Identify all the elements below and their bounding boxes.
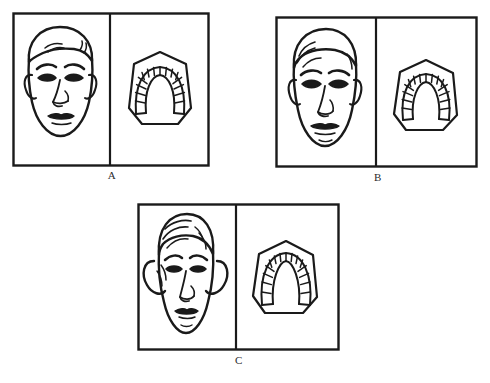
panel-label-c: C (209, 355, 269, 366)
panel-label-b: B (348, 172, 408, 183)
arch-c-cap-left (262, 304, 273, 305)
arch-a-cap-right (174, 113, 184, 114)
panel-b-illustration (275, 16, 478, 168)
face-b-mouth (311, 124, 339, 129)
face-a-eye-right (65, 74, 83, 81)
panel-c-illustration (137, 203, 340, 351)
panel-c (137, 203, 340, 351)
face-c-eye-left (166, 266, 182, 272)
face-a-mouth (48, 114, 74, 119)
face-b-eye-left (302, 80, 321, 88)
arch-c-cap-right (299, 304, 310, 305)
arch-a-cap-left (136, 113, 146, 114)
panel-a (12, 12, 210, 167)
face-c-mouth (175, 309, 198, 314)
arch-a-drawing (129, 52, 191, 124)
panel-label-a: A (82, 170, 142, 181)
arch-b-cap-left (403, 119, 413, 120)
face-b-eye-right (329, 80, 348, 88)
figure-root: A (0, 0, 490, 383)
arch-b-cap-right (439, 119, 449, 120)
panel-b (275, 16, 478, 168)
arch-b-drawing (394, 60, 457, 130)
face-a-eye-left (38, 74, 56, 81)
face-c-eye-right (190, 266, 206, 272)
arch-c-drawing (253, 241, 317, 313)
panel-a-illustration (12, 12, 210, 167)
